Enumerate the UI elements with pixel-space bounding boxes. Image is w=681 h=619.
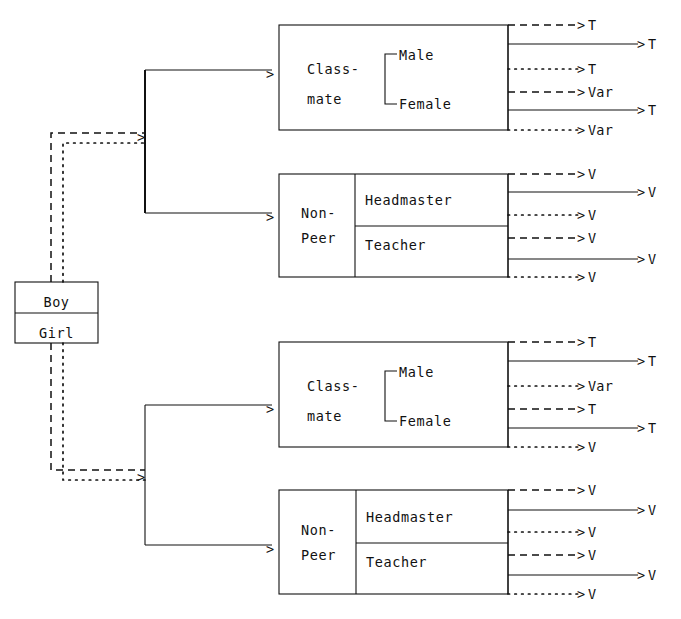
output-arrowhead: > xyxy=(577,547,585,563)
output-arrowhead: > xyxy=(637,251,645,267)
node-sub-label-female: Female xyxy=(399,413,451,429)
root-row-label-boy: Boy xyxy=(43,294,69,310)
node-label-line1: Class- xyxy=(307,61,359,77)
output-label: V xyxy=(648,502,656,518)
tree-diagram: Boy Girl > > > > > > Class- mate xyxy=(0,0,681,619)
output-label: T xyxy=(588,61,596,77)
root-box: Boy Girl xyxy=(15,282,98,343)
girl-connector-upper xyxy=(63,143,145,282)
diagram-canvas: Boy Girl > > > > > > Class- mate xyxy=(0,0,681,619)
output-label: V xyxy=(648,184,656,200)
output-label: V xyxy=(588,207,596,223)
output-label: V xyxy=(648,251,656,267)
node-label-line1: Non- xyxy=(301,205,336,221)
upper-branch-trunk: > > xyxy=(145,66,274,225)
output-line: V > xyxy=(508,230,596,246)
output-label: V xyxy=(588,439,596,455)
node-sub-label-headmaster: Headmaster xyxy=(365,192,452,208)
output-line: V > xyxy=(508,184,656,200)
node-label-line1: Non- xyxy=(301,522,336,538)
node-sub-label-teacher: Teacher xyxy=(365,237,426,253)
output-arrowhead: > xyxy=(637,102,645,118)
output-arrowhead: > xyxy=(577,378,585,394)
output-label: V xyxy=(588,482,596,498)
output-arrowhead: > xyxy=(637,353,645,369)
node-classmate-upper[interactable]: Class- mate Male Female T > T > T > Var … xyxy=(279,17,656,138)
output-line: T > xyxy=(508,61,596,77)
output-line: V > xyxy=(508,439,596,455)
node-label-line2: Peer xyxy=(301,230,336,246)
output-line: V > xyxy=(508,502,656,518)
girl-connector-lower xyxy=(63,343,145,480)
output-line: V > xyxy=(508,482,596,498)
output-label: V xyxy=(588,524,596,540)
output-arrowhead: > xyxy=(577,334,585,350)
output-line: V > xyxy=(508,251,656,267)
output-arrowhead: > xyxy=(577,207,585,223)
output-label: T xyxy=(648,420,656,436)
output-arrowhead: > xyxy=(577,401,585,417)
node-sub-label-male: Male xyxy=(399,47,434,63)
output-label: V xyxy=(648,567,656,583)
output-label: Var xyxy=(588,84,613,100)
output-label: V xyxy=(588,230,596,246)
output-label: V xyxy=(588,269,596,285)
node-label-line2: mate xyxy=(307,408,342,424)
arrowhead-lower-trunk: > xyxy=(137,469,145,485)
output-label: T xyxy=(588,401,596,417)
node-nonpeer-upper[interactable]: Non- Peer Headmaster Teacher V > V > V >… xyxy=(279,166,656,285)
node-sub-label-female: Female xyxy=(399,96,451,112)
arrowhead-nonpeer-upper: > xyxy=(266,209,274,225)
node-label-line2: mate xyxy=(307,91,342,107)
output-arrowhead: > xyxy=(577,269,585,285)
boy-connector-upper xyxy=(51,133,145,282)
arrowhead-classmate-lower: > xyxy=(266,401,274,417)
output-line: V > xyxy=(508,269,596,285)
node-label-line1: Class- xyxy=(307,378,359,394)
output-arrowhead: > xyxy=(577,439,585,455)
output-line: V > xyxy=(508,166,596,182)
output-line: T > xyxy=(508,36,656,52)
output-label: T xyxy=(648,353,656,369)
output-line: T > xyxy=(508,353,656,369)
output-line: V > xyxy=(508,586,596,602)
boy-connector-lower xyxy=(51,343,145,470)
output-arrowhead: > xyxy=(577,17,585,33)
output-label: T xyxy=(588,17,596,33)
node-label-line2: Peer xyxy=(301,547,336,563)
output-label: V xyxy=(588,547,596,563)
output-arrowhead: > xyxy=(577,122,585,138)
output-arrowhead: > xyxy=(637,420,645,436)
output-line: T > xyxy=(508,102,656,118)
output-line: T > xyxy=(508,401,596,417)
output-line: V > xyxy=(508,547,596,563)
node-nonpeer-lower[interactable]: Non- Peer Headmaster Teacher V > V > V >… xyxy=(279,482,656,602)
output-line: V > xyxy=(508,207,596,223)
output-line: Var > xyxy=(508,84,613,100)
output-line: Var > xyxy=(508,378,613,394)
output-arrowhead: > xyxy=(577,482,585,498)
output-label: T xyxy=(648,102,656,118)
output-label: Var xyxy=(588,378,613,394)
output-line: V > xyxy=(508,567,656,583)
output-arrowhead: > xyxy=(577,166,585,182)
output-line: Var > xyxy=(508,122,613,138)
output-arrowhead: > xyxy=(577,230,585,246)
output-arrowhead: > xyxy=(637,567,645,583)
output-line: T > xyxy=(508,420,656,436)
output-label: Var xyxy=(588,122,613,138)
output-label: T xyxy=(648,36,656,52)
arrowhead-nonpeer-lower: > xyxy=(266,541,274,557)
node-classmate-lower[interactable]: Class- mate Male Female T > T > Var > T … xyxy=(279,334,656,455)
output-arrowhead: > xyxy=(577,61,585,77)
output-arrowhead: > xyxy=(577,524,585,540)
arrowhead-classmate-upper: > xyxy=(266,66,274,82)
output-label: V xyxy=(588,166,596,182)
output-arrowhead: > xyxy=(577,586,585,602)
output-line: T > xyxy=(508,17,596,33)
output-line: V > xyxy=(508,524,596,540)
output-line: T > xyxy=(508,334,596,350)
output-arrowhead: > xyxy=(637,36,645,52)
node-sub-label-male: Male xyxy=(399,364,434,380)
lower-branch-trunk: > > xyxy=(145,401,274,557)
